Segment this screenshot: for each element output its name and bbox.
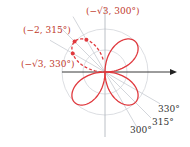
label-point-300: (−√3, 300°) — [86, 6, 139, 16]
x-axis-arrow-icon — [170, 69, 177, 75]
label-point-330: (−√3, 330°) — [21, 59, 74, 69]
ray-label-315: 315° — [152, 117, 174, 127]
ray-label-330: 330° — [158, 104, 180, 114]
ray-label-300: 300° — [130, 125, 152, 135]
label-point-315: (−2, 315°) — [23, 25, 71, 35]
polar-rose-diagram: (−2, 315°) (−√3, 300°) (−√3, 330°) 330° … — [0, 0, 190, 147]
